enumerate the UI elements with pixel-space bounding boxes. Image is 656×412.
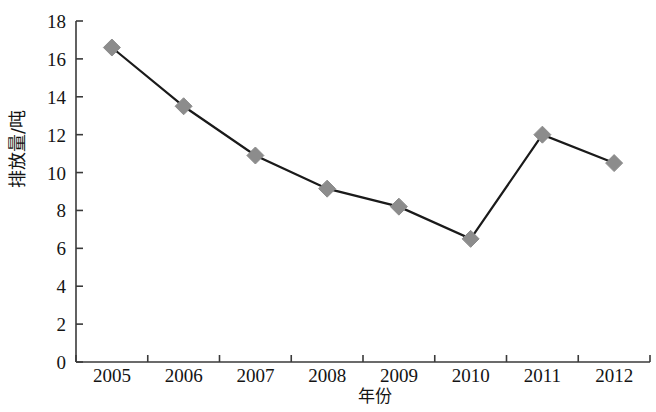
y-axis-tick-label: 6 [22,239,66,258]
plot-area [0,0,656,412]
data-point-marker [462,230,479,247]
y-axis-tick-label: 14 [22,87,66,106]
x-axis-tick-label: 2005 [72,366,152,385]
data-markers [103,39,622,247]
y-axis-tick-label: 2 [22,315,66,334]
x-axis-tick-label: 2012 [574,366,654,385]
data-point-marker [319,180,336,197]
y-axis-tick-label: 8 [22,201,66,220]
data-point-marker [247,147,264,164]
x-axis-tick-label: 2007 [215,366,295,385]
y-axis-tick-label: 0 [22,353,66,372]
x-axis-ticks [76,355,650,362]
y-axis-tick-labels: 024681012141618 [10,0,66,412]
data-point-marker [390,198,407,215]
y-axis-tick-label: 12 [22,125,66,144]
y-axis-ticks [76,21,83,362]
x-axis-tick-label: 2009 [359,366,439,385]
x-axis-tick-label: 2006 [144,366,224,385]
data-point-marker [534,126,551,143]
y-axis-tick-label: 16 [22,49,66,68]
y-axis-tick-label: 18 [22,12,66,31]
emissions-line-chart: 排放量/吨 024681012141618 200520062007200820… [0,0,656,412]
data-point-marker [606,155,623,172]
x-axis-tick-label: 2011 [502,366,582,385]
x-axis-tick-label: 2008 [287,366,367,385]
y-axis-tick-label: 10 [22,163,66,182]
x-axis-title: 年份 [0,388,656,405]
x-axis-tick-label: 2010 [431,366,511,385]
y-axis-tick-label: 4 [22,277,66,296]
data-line [112,48,614,239]
axis-lines [76,21,650,362]
